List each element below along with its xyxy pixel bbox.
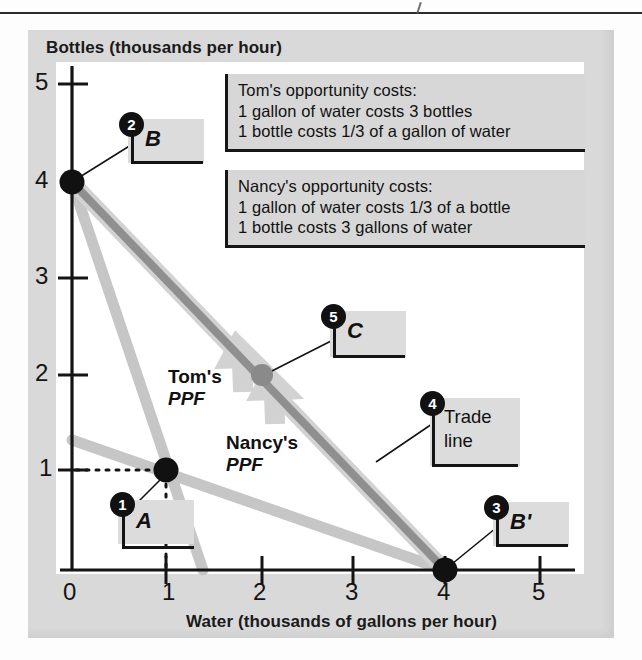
leader-line-C	[264, 340, 333, 375]
callout-c-label: C	[347, 318, 363, 344]
callout-trade-label-line-2: line	[444, 430, 473, 452]
x-tick-label-1: 1	[162, 578, 175, 606]
nancys-ppf-label-name: Nancy's	[226, 432, 298, 454]
callout-trade-label-line-1: Trade	[444, 406, 492, 428]
toms-opportunity-costs-box: Tom's opportunity costs: 1 gallon of wat…	[225, 74, 585, 152]
nancys-opportunity-costs-box: Nancy's opportunity costs: 1 gallon of w…	[225, 170, 585, 248]
point-C	[251, 364, 273, 386]
x-tick-label-5: 5	[532, 578, 545, 606]
x-tick-label-0: 0	[63, 578, 76, 606]
toms-costs-title: Tom's opportunity costs:	[238, 80, 575, 101]
toms-ppf-label: Tom's PPF	[168, 366, 222, 410]
y-tick-label-4: 4	[35, 166, 48, 194]
nancys-costs-title: Nancy's opportunity costs:	[238, 176, 575, 197]
nancys-ppf-label-abbr: PPF	[226, 454, 298, 476]
callout-trade-badge: 4	[420, 391, 445, 416]
callout-b-badge: 2	[119, 112, 144, 137]
y-tick-label-3: 3	[35, 262, 48, 290]
nancys-costs-line-2: 1 bottle costs 3 gallons of water	[238, 217, 575, 238]
leader-line-B	[75, 145, 131, 180]
callout-c-badge: 5	[321, 304, 346, 329]
callout-b-label: B	[145, 126, 161, 152]
nancys-ppf-label: Nancy's PPF	[226, 432, 298, 476]
y-tick-label-1: 1	[39, 454, 52, 482]
nancys-costs-line-1: 1 gallon of water costs 1/3 of a bottle	[238, 197, 575, 218]
toms-costs-line-1: 1 gallon of water costs 3 bottles	[238, 101, 575, 122]
callout-bprime-badge: 3	[484, 495, 509, 520]
toms-costs-line-2: 1 bottle costs 1/3 of a gallon of water	[238, 121, 575, 142]
toms-ppf-label-name: Tom's	[168, 366, 222, 388]
y-tick-label-5: 5	[35, 68, 48, 96]
toms-ppf-label-abbr: PPF	[168, 388, 222, 410]
x-tick-label-2: 2	[253, 578, 266, 606]
point-B	[60, 170, 85, 195]
figure-root: Bottles (thousands per hour) Water (thou…	[0, 0, 642, 660]
callout-a-label: A	[136, 508, 152, 534]
leader-line-trade	[376, 424, 432, 462]
callout-a-badge: 1	[110, 492, 135, 517]
point-A	[154, 458, 179, 483]
y-tick-label-2: 2	[35, 359, 48, 387]
x-tick-label-4: 4	[437, 578, 450, 606]
callout-bprime-label: B'	[510, 509, 531, 535]
x-tick-label-3: 3	[345, 578, 358, 606]
callout-a-bracket	[122, 505, 194, 549]
